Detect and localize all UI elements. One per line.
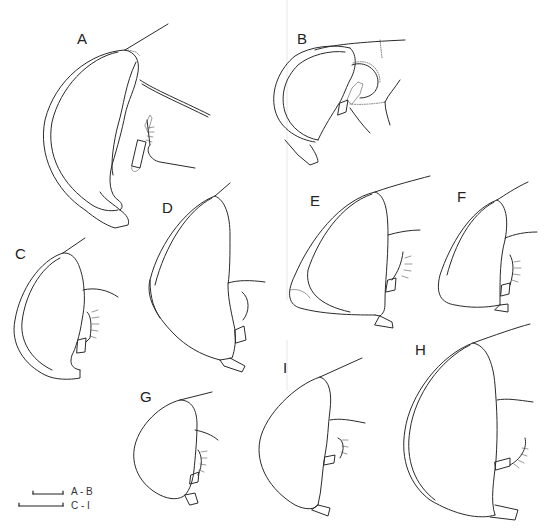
drawing-b — [274, 40, 405, 165]
drawing-c — [14, 238, 118, 379]
drawing-i — [259, 358, 365, 516]
panel-label-e: E — [310, 193, 320, 208]
panel-label-c: C — [15, 246, 26, 261]
drawing-g — [134, 392, 218, 505]
scale-label-ab: A - B — [71, 487, 93, 497]
figure-plate: A B C D E F G H I A - B C - I — [0, 0, 548, 529]
panel-label-g: G — [140, 389, 152, 404]
panel-label-f: F — [457, 189, 466, 204]
panel-label-a: A — [77, 31, 87, 46]
panel-label-i: I — [283, 360, 287, 375]
panel-label-d: D — [162, 200, 173, 215]
figure-drawings — [0, 0, 548, 529]
drawing-a — [43, 24, 210, 228]
panel-label-h: H — [415, 342, 426, 357]
panel-label-b: B — [297, 31, 307, 46]
drawing-f — [438, 182, 537, 312]
scale-label-ci: C - I — [71, 501, 90, 511]
